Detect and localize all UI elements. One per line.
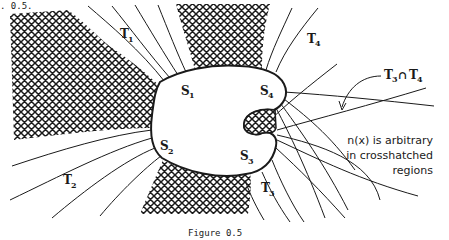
label-T2: T 2 xyxy=(63,173,77,190)
label-T3-intersect-T4: T 3 ∩ T 4 xyxy=(384,68,423,84)
crosshatched-region-top-left xyxy=(10,10,162,140)
figure-caption: Figure 0.5 xyxy=(188,228,242,238)
svg-text:1: 1 xyxy=(189,90,195,100)
arrow-intersection xyxy=(339,76,381,110)
svg-text:4: 4 xyxy=(315,38,321,48)
svg-text:1: 1 xyxy=(128,34,134,44)
svg-text:3: 3 xyxy=(269,188,275,198)
svg-text:4: 4 xyxy=(417,74,423,84)
svg-text:in crosshatched: in crosshatched xyxy=(346,149,433,162)
label-T1: T 1 xyxy=(120,27,134,44)
crosshatched-region-top-middle xyxy=(176,4,270,70)
svg-text:2: 2 xyxy=(168,146,174,156)
svg-text:n(x) is arbitrary: n(x) is arbitrary xyxy=(347,134,433,147)
svg-text:2: 2 xyxy=(71,180,77,190)
svg-text:3: 3 xyxy=(248,156,254,166)
trajectories-T2 xyxy=(10,130,161,218)
header-fragment: . 0.5. xyxy=(0,1,33,11)
label-T3: T 3 xyxy=(261,181,275,198)
svg-text:∩: ∩ xyxy=(398,69,407,82)
svg-text:regions: regions xyxy=(392,164,433,177)
svg-text:4: 4 xyxy=(268,90,274,100)
annotation-text: n(x) is arbitrary in crosshatched region… xyxy=(346,134,433,177)
label-T4: T 4 xyxy=(307,32,321,48)
figure-diagram: . 0.5. xyxy=(0,0,449,240)
